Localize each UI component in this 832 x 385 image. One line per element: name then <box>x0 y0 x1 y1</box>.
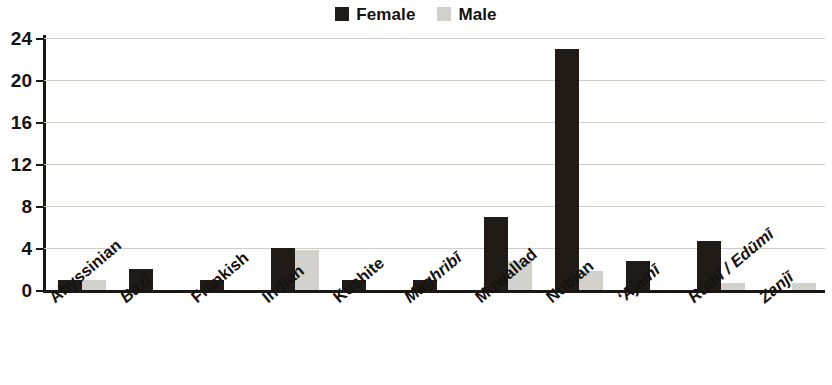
legend-label-female: Female <box>356 6 415 23</box>
y-tick-mark <box>36 248 44 250</box>
y-tick-mark <box>36 80 44 82</box>
y-tick-mark <box>36 206 44 208</box>
bar-chart-figure: Female Male 04812162024 AbyssinianBāzīFr… <box>0 0 832 385</box>
y-tick-mark <box>36 290 44 292</box>
y-tick-label: 16 <box>11 113 32 132</box>
y-tick-label: 0 <box>21 281 32 300</box>
y-tick-label: 20 <box>11 71 32 90</box>
legend-entry-female: Female <box>335 6 415 23</box>
legend-entry-male: Male <box>437 6 496 23</box>
bar-male <box>721 283 745 290</box>
plot-area: 04812162024 <box>44 38 825 290</box>
legend-label-male: Male <box>458 6 496 23</box>
chart-legend: Female Male <box>0 2 832 26</box>
y-tick-label: 8 <box>21 197 32 216</box>
y-tick-mark <box>36 122 44 124</box>
bar-female <box>555 49 579 291</box>
y-tick-label: 12 <box>11 155 32 174</box>
y-tick-mark <box>36 164 44 166</box>
square-swatch-icon <box>335 7 349 21</box>
bars-layer <box>44 38 825 290</box>
y-tick-label: 4 <box>21 239 32 258</box>
y-tick-mark <box>36 38 44 40</box>
y-tick-label: 24 <box>11 29 32 48</box>
square-swatch-icon <box>437 7 451 21</box>
x-axis-labels: AbyssinianBāzīFrankishIndianKushiteMaghr… <box>44 293 825 385</box>
bar-male <box>792 283 816 290</box>
